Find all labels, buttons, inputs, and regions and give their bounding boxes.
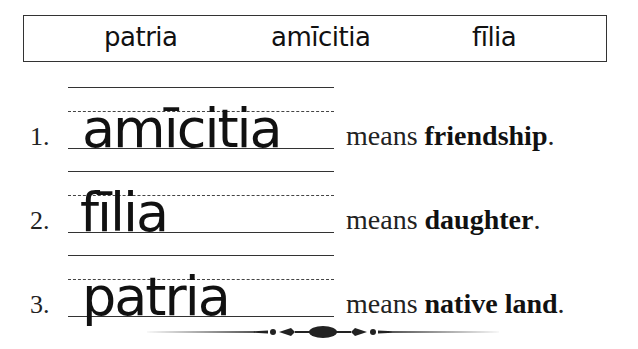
- meaning-sentence: means native land.: [346, 288, 565, 320]
- word-bank-word: fīlia: [472, 22, 516, 52]
- sentence-period: .: [558, 288, 565, 319]
- exercise-number: 3.: [30, 290, 50, 320]
- english-meaning: native land: [425, 288, 558, 319]
- sentence-period: .: [533, 204, 540, 235]
- exercise-row: 2. fīlia means daughter.: [0, 164, 638, 248]
- means-label: means: [346, 204, 418, 235]
- ornamental-divider-icon: [143, 325, 503, 339]
- english-meaning: friendship: [425, 120, 548, 151]
- meaning-sentence: means friendship.: [346, 120, 554, 152]
- practice-word: fīlia: [80, 186, 167, 240]
- exercise-row: 1. amīcitia means friendship.: [0, 80, 638, 164]
- exercise-number: 1.: [30, 122, 50, 152]
- means-label: means: [346, 120, 418, 151]
- word-bank-word: patria: [104, 22, 177, 52]
- means-label: means: [346, 288, 418, 319]
- meaning-sentence: means daughter.: [346, 204, 540, 236]
- top-guideline: [68, 87, 334, 88]
- word-bank-word: amīcitia: [271, 22, 370, 52]
- top-guideline: [68, 255, 334, 256]
- english-meaning: daughter: [425, 204, 534, 235]
- practice-word: patria: [82, 270, 229, 324]
- sentence-period: .: [547, 120, 554, 151]
- word-bank-box: patria amīcitia fīlia: [23, 15, 607, 62]
- exercise-number: 2.: [30, 206, 50, 236]
- top-guideline: [68, 171, 334, 172]
- exercise-row: 3. patria means native land.: [0, 248, 638, 332]
- practice-word: amīcitia: [82, 102, 281, 156]
